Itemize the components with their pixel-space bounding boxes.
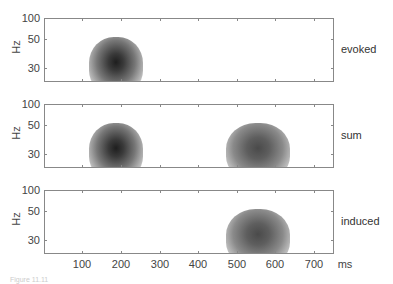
x-tick-mark [160, 104, 161, 107]
y-tick-mark [44, 39, 47, 40]
sum-blob-200ms [89, 123, 143, 168]
x-tick-mark [314, 18, 315, 21]
x-tick-mark [160, 79, 161, 82]
x-tick-mark [314, 104, 315, 107]
x-tick-mark [82, 104, 83, 107]
x-tick-mark [198, 79, 199, 82]
x-tick-mark [198, 18, 199, 21]
x-tick-mark [121, 190, 122, 193]
y-tick-mark [331, 18, 334, 19]
induced-blob-550ms [226, 209, 290, 254]
x-tick-mark [314, 79, 315, 82]
ytick-100: 100 [18, 12, 40, 24]
x-tick-mark [275, 251, 276, 254]
x-tick-mark [237, 104, 238, 107]
y-tick-mark [331, 240, 334, 241]
label-induced: induced [341, 215, 380, 227]
x-tick-mark [82, 18, 83, 21]
xlabel-ms: ms [330, 258, 360, 270]
x-tick-mark [160, 18, 161, 21]
x-tick-mark [275, 79, 276, 82]
ytick-30: 30 [18, 148, 40, 160]
x-tick-mark [121, 79, 122, 82]
x-tick-mark [198, 251, 199, 254]
y-tick-mark [44, 18, 47, 19]
x-tick-mark [314, 251, 315, 254]
y-tick-mark [331, 211, 334, 212]
ylabel-hz: Hz [10, 126, 22, 139]
xtick-400: 400 [183, 258, 213, 270]
x-tick-mark [82, 190, 83, 193]
sum-blob-550ms [226, 123, 290, 168]
xtick-300: 300 [145, 258, 175, 270]
y-tick-mark [44, 68, 47, 69]
ytick-30: 30 [18, 234, 40, 246]
y-tick-mark [44, 104, 47, 105]
xtick-700: 700 [299, 258, 329, 270]
x-tick-mark [275, 190, 276, 193]
panel-evoked [44, 18, 334, 82]
panel-induced [44, 190, 334, 254]
label-evoked: evoked [341, 43, 376, 55]
x-tick-mark [275, 165, 276, 168]
y-tick-mark [331, 154, 334, 155]
y-tick-mark [331, 125, 334, 126]
panel-sum [44, 104, 334, 168]
x-tick-mark [82, 251, 83, 254]
x-tick-mark [121, 251, 122, 254]
x-tick-mark [314, 190, 315, 193]
x-tick-mark [198, 104, 199, 107]
x-tick-mark [160, 165, 161, 168]
xtick-500: 500 [222, 258, 252, 270]
ylabel-hz: Hz [10, 40, 22, 53]
y-tick-mark [44, 125, 47, 126]
x-tick-mark [82, 165, 83, 168]
x-tick-mark [160, 190, 161, 193]
x-tick-mark [237, 251, 238, 254]
x-tick-mark [121, 104, 122, 107]
xtick-600: 600 [260, 258, 290, 270]
x-tick-mark [237, 79, 238, 82]
x-tick-mark [198, 165, 199, 168]
ytick-100: 100 [18, 184, 40, 196]
y-tick-mark [331, 190, 334, 191]
x-tick-mark [82, 79, 83, 82]
ylabel-hz: Hz [10, 212, 22, 225]
y-tick-mark [44, 190, 47, 191]
x-tick-mark [275, 104, 276, 107]
y-tick-mark [331, 39, 334, 40]
xtick-200: 200 [106, 258, 136, 270]
figure-caption: Figure 11.11 [10, 276, 48, 283]
evoked-blob-200ms [89, 37, 143, 82]
y-tick-mark [331, 68, 334, 69]
x-tick-mark [160, 251, 161, 254]
x-tick-mark [198, 190, 199, 193]
x-tick-mark [237, 190, 238, 193]
x-tick-mark [237, 165, 238, 168]
y-tick-mark [44, 154, 47, 155]
y-tick-mark [44, 211, 47, 212]
x-tick-mark [314, 165, 315, 168]
x-tick-mark [121, 165, 122, 168]
ytick-100: 100 [18, 98, 40, 110]
label-sum: sum [341, 129, 362, 141]
x-tick-mark [237, 18, 238, 21]
y-tick-mark [44, 240, 47, 241]
x-tick-mark [275, 18, 276, 21]
y-tick-mark [331, 104, 334, 105]
x-tick-mark [121, 18, 122, 21]
ytick-30: 30 [18, 62, 40, 74]
xtick-100: 100 [67, 258, 97, 270]
